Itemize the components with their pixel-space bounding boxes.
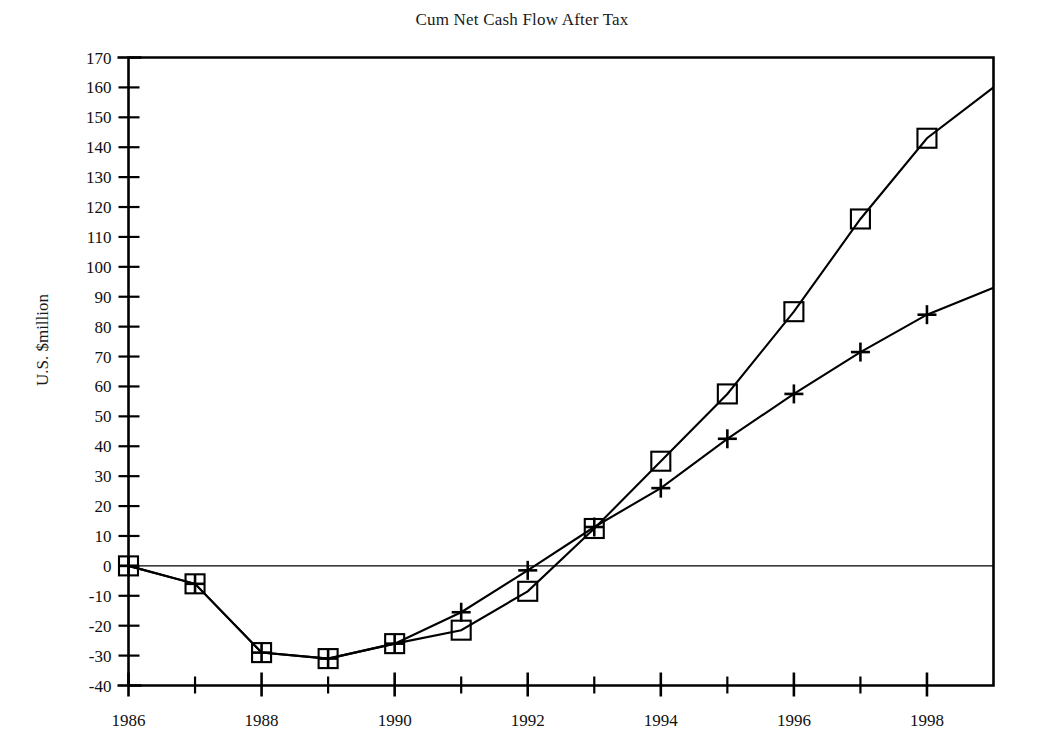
series-square-series [119,87,994,668]
y-tick-label: 10 [95,527,112,546]
x-tick-label: 1994 [644,711,679,730]
axis-frame-group [129,58,994,686]
y-tick-label: 70 [95,348,112,367]
y-tick-label: 80 [95,318,112,337]
x-tick-label: 1990 [378,711,412,730]
series-line [129,288,994,659]
plot-area: -40-30-20-100102030405060708090100110120… [0,0,1044,753]
x-tick-label: 1992 [511,711,545,730]
axis-frame [129,58,994,686]
series-line [129,87,994,658]
y-tick-label: 90 [95,288,112,307]
x-tick-label-group: 1986198819901992199419961998 [112,711,944,730]
y-tick-label: -30 [89,647,112,666]
chart-figure: Cum Net Cash Flow After Tax U.S. $millio… [0,0,1044,753]
y-tick-label: 0 [103,557,112,576]
y-tick-label: -20 [89,617,112,636]
y-tick-label: 130 [86,168,112,187]
y-tick-label: 110 [87,228,112,247]
y-tick-label: 150 [86,108,112,127]
y-tick-label: 40 [95,437,112,456]
y-tick-label: 60 [95,377,112,396]
data-series-group [119,87,994,668]
x-tick-label: 1986 [112,711,146,730]
y-tick-label: 50 [95,407,112,426]
plot-svg: -40-30-20-100102030405060708090100110120… [0,0,1044,753]
y-tick-label-group: -40-30-20-100102030405060708090100110120… [86,49,112,696]
y-tick-label: -40 [89,677,112,696]
x-tick-label: 1996 [777,711,811,730]
y-tick-label: 160 [86,78,112,97]
y-tick-label: 170 [86,49,112,68]
series-plus-series [119,288,994,668]
y-tick-label: 120 [86,198,112,217]
x-tick-label: 1988 [245,711,279,730]
y-tick-label: 20 [95,497,112,516]
x-tick-label: 1998 [910,711,944,730]
y-tick-label: 140 [86,138,112,157]
y-tick-label: 100 [86,258,112,277]
y-tick-label: 30 [95,467,112,486]
y-tick-label: -10 [89,587,112,606]
